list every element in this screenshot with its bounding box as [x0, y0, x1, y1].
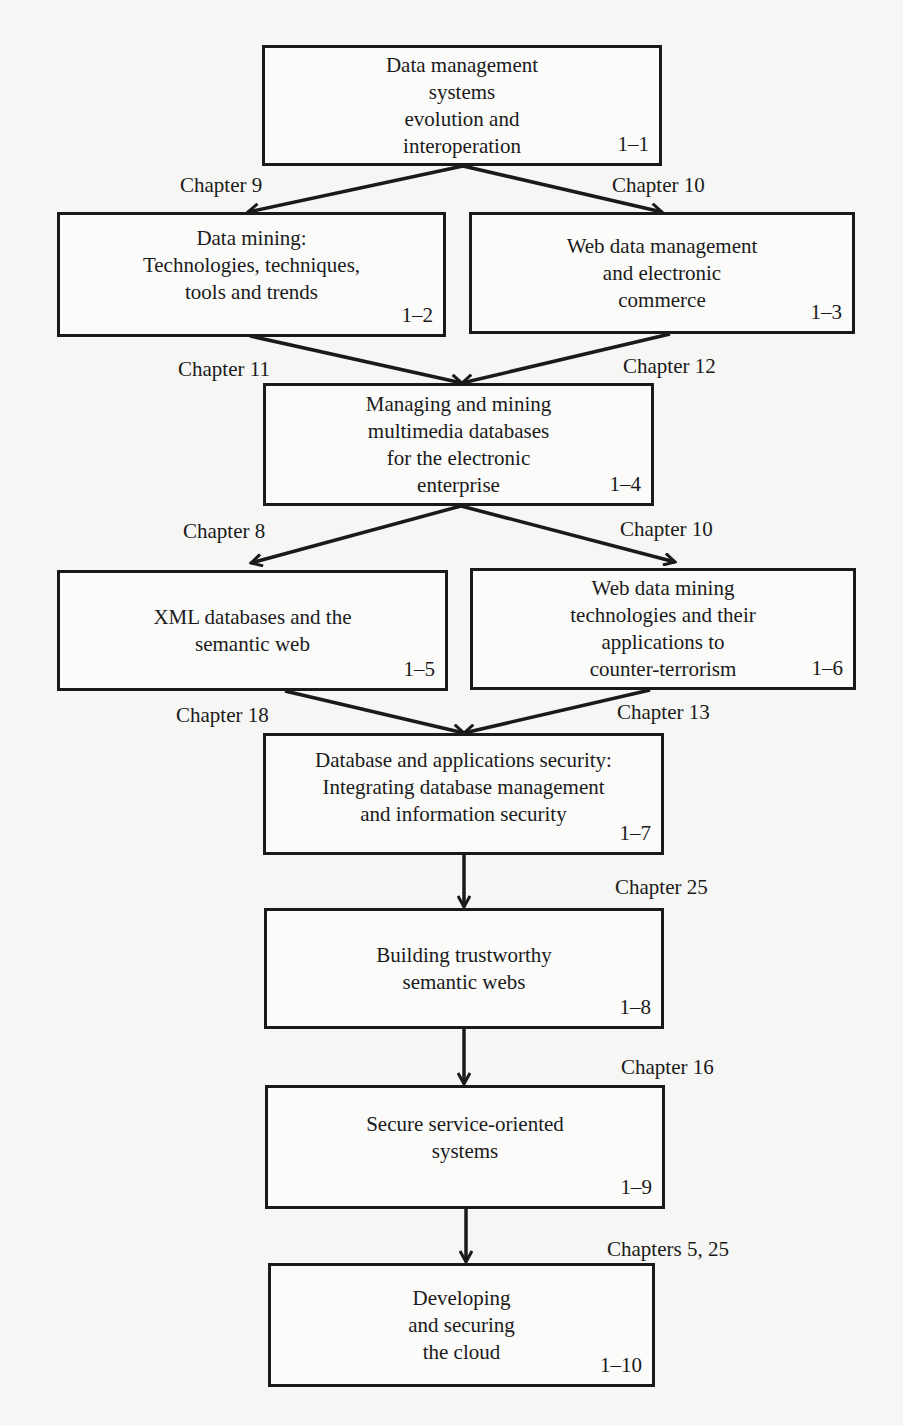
- edge-label: Chapter 8: [183, 519, 265, 544]
- node-xml-databases: XML databases and the semantic web 1–5: [57, 570, 448, 691]
- node-number: 1–4: [610, 472, 642, 497]
- node-data-management-systems: Data management systems evolution and in…: [262, 45, 662, 166]
- node-securing-the-cloud: Developing and securing the cloud 1–10: [268, 1263, 655, 1387]
- edge-label: Chapter 16: [621, 1055, 714, 1080]
- node-web-data-management: Web data management and electronic comme…: [469, 212, 855, 334]
- edge-label: Chapter 18: [176, 703, 269, 728]
- node-web-data-mining: Web data mining technologies and their a…: [470, 568, 856, 690]
- node-number: 1–9: [621, 1175, 653, 1200]
- node-title: Database and applications security: Inte…: [305, 747, 622, 828]
- node-title: Managing and mining multimedia databases…: [356, 391, 561, 499]
- node-title: Developing and securing the cloud: [398, 1285, 525, 1366]
- node-title: Web data management and electronic comme…: [557, 233, 768, 314]
- node-title: Secure service-oriented systems: [356, 1111, 574, 1165]
- edge-label: Chapter 11: [178, 357, 270, 382]
- edge-label: Chapter 9: [180, 173, 262, 198]
- edge-label: Chapter 25: [615, 875, 708, 900]
- node-number: 1–6: [812, 656, 844, 681]
- node-number: 1–1: [618, 132, 650, 157]
- node-number: 1–3: [811, 300, 843, 325]
- node-title: Data management systems evolution and in…: [376, 52, 548, 160]
- node-number: 1–2: [402, 303, 434, 328]
- node-multimedia-databases: Managing and mining multimedia databases…: [263, 383, 654, 506]
- node-number: 1–7: [620, 821, 652, 846]
- arrow-1-5-to-1-7: [285, 691, 464, 733]
- node-title: XML databases and the semantic web: [143, 604, 361, 658]
- arrow-1-4-to-1-5: [251, 506, 461, 563]
- node-data-mining: Data mining: Technologies, techniques, t…: [57, 212, 446, 337]
- node-title: Web data mining technologies and their a…: [560, 575, 765, 683]
- arrow-1-1-to-1-2: [248, 166, 463, 212]
- edge-label: Chapter 12: [623, 354, 716, 379]
- node-database-applications-security: Database and applications security: Inte…: [263, 733, 664, 855]
- edge-label: Chapter 10: [612, 173, 705, 198]
- node-title: Data mining: Technologies, techniques, t…: [133, 225, 370, 306]
- edge-label: Chapter 10: [620, 517, 713, 542]
- edge-label: Chapters 5, 25: [607, 1237, 729, 1262]
- node-number: 1–10: [600, 1353, 642, 1378]
- arrow-1-2-to-1-4: [250, 336, 462, 383]
- node-title: Building trustworthy semantic webs: [366, 942, 562, 996]
- node-number: 1–5: [404, 657, 436, 682]
- node-number: 1–8: [620, 995, 652, 1020]
- node-trustworthy-semantic-webs: Building trustworthy semantic webs 1–8: [264, 908, 664, 1029]
- book-series-flowchart: Data management systems evolution and in…: [0, 0, 903, 1425]
- edge-label: Chapter 13: [617, 700, 710, 725]
- node-secure-service-oriented-systems: Secure service-oriented systems 1–9: [265, 1085, 665, 1209]
